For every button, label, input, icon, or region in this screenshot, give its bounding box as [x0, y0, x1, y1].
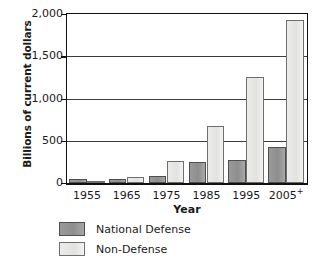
- bar-national-defense: [69, 179, 87, 183]
- y-tick-label: 2,000: [3, 8, 63, 19]
- bar-national-defense: [228, 160, 246, 183]
- legend-swatch-non-defense: [59, 242, 85, 256]
- bar-group: [107, 14, 147, 183]
- bar-non-defense: [246, 77, 264, 183]
- bar-group: [226, 14, 266, 183]
- y-tick-mark: [61, 141, 66, 142]
- x-axis-title: Year: [66, 203, 308, 216]
- y-tick-mark: [61, 183, 66, 184]
- bar-non-defense: [87, 181, 105, 183]
- legend-label-non-defense: Non-Defense: [96, 243, 167, 256]
- legend-swatch-national-defense: [59, 222, 85, 236]
- bar-non-defense: [127, 177, 145, 183]
- chart-legend: National Defense Non-Defense: [59, 219, 191, 259]
- y-tick-label: 1,500: [3, 50, 63, 61]
- y-tick-mark: [61, 99, 66, 100]
- bar-group: [67, 14, 107, 183]
- legend-item-non-defense: Non-Defense: [59, 239, 191, 259]
- y-tick-label: 500: [3, 135, 63, 146]
- y-tick-mark: [61, 56, 66, 57]
- bar-non-defense: [207, 126, 225, 183]
- bar-group: [266, 14, 306, 183]
- legend-label-national-defense: National Defense: [96, 223, 191, 236]
- legend-item-national-defense: National Defense: [59, 219, 191, 239]
- y-tick-label: 1,000: [3, 93, 63, 104]
- bar-group: [147, 14, 187, 183]
- y-tick-mark: [61, 14, 66, 15]
- x-tick-label: 2005+: [258, 189, 314, 202]
- bar-non-defense: [167, 161, 185, 183]
- bar-national-defense: [109, 179, 127, 183]
- y-tick-label: 0: [3, 177, 63, 188]
- bar-group: [187, 14, 227, 183]
- bar-national-defense: [149, 176, 167, 183]
- bar-non-defense: [286, 20, 304, 183]
- bar-national-defense: [268, 147, 286, 183]
- bar-national-defense: [189, 162, 207, 183]
- bars-layer: [67, 14, 306, 183]
- bar-chart: Billions of current dollars 05001,0001,5…: [0, 0, 317, 263]
